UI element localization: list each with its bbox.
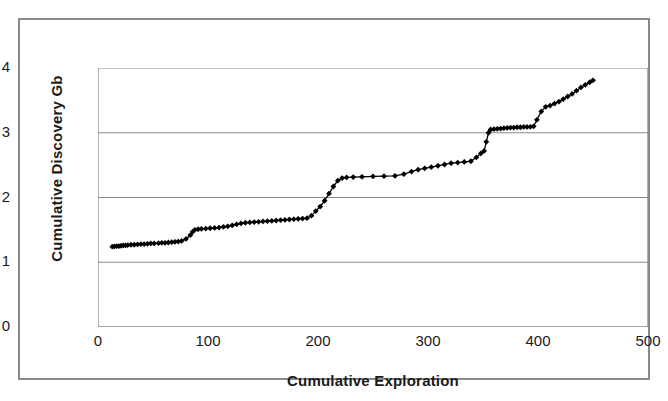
data-point-marker xyxy=(238,221,244,227)
y-tick-label: 3 xyxy=(0,123,10,140)
data-point-marker xyxy=(448,160,454,166)
x-tick-label: 500 xyxy=(623,332,668,349)
figure-container: Cumulative Discovery Gb Cumulative Explo… xyxy=(0,0,668,401)
data-point-marker xyxy=(401,171,407,177)
data-point-marker xyxy=(225,223,231,229)
data-point-marker xyxy=(359,174,365,180)
data-point-marker xyxy=(381,173,387,179)
data-point-marker xyxy=(415,167,421,173)
data-point-marker xyxy=(392,173,398,179)
data-point-marker xyxy=(339,175,345,181)
data-point-marker xyxy=(326,191,332,197)
data-point-marker xyxy=(409,169,415,175)
data-point-marker xyxy=(221,224,227,230)
y-tick-label: 2 xyxy=(0,188,10,205)
x-tick-label: 0 xyxy=(73,332,123,349)
gridlines xyxy=(98,68,648,327)
data-point-marker xyxy=(350,174,356,180)
data-point-marker xyxy=(435,163,441,169)
data-point-marker xyxy=(216,225,222,231)
data-point-marker xyxy=(428,164,434,170)
chart-outer-frame: Cumulative Discovery Gb Cumulative Explo… xyxy=(18,18,650,380)
data-point-marker xyxy=(229,222,235,228)
data-series-markers xyxy=(109,77,596,249)
data-point-marker xyxy=(422,165,428,171)
data-point-marker xyxy=(370,174,376,180)
x-tick-label: 400 xyxy=(513,332,563,349)
data-point-marker xyxy=(582,82,588,88)
data-point-marker xyxy=(483,139,489,145)
x-tick-label: 300 xyxy=(403,332,453,349)
x-tick-label: 200 xyxy=(293,332,343,349)
data-point-marker xyxy=(442,162,448,168)
data-point-marker xyxy=(304,215,310,221)
data-point-marker xyxy=(234,221,240,227)
data-point-marker xyxy=(455,160,461,166)
data-series-line xyxy=(112,80,593,246)
data-point-marker xyxy=(344,175,350,181)
data-point-marker xyxy=(534,117,540,123)
x-tick-label: 100 xyxy=(183,332,233,349)
chart-svg xyxy=(98,68,648,327)
data-point-marker xyxy=(565,94,571,100)
y-axis-title: Cumulative Discovery Gb xyxy=(48,29,65,309)
plot-area xyxy=(98,68,648,327)
y-tick-label: 4 xyxy=(0,58,10,75)
x-axis-title: Cumulative Exploration xyxy=(98,372,648,389)
data-point-marker xyxy=(560,96,566,102)
y-tick-label: 0 xyxy=(0,317,10,334)
y-tick-label: 1 xyxy=(0,252,10,269)
data-point-marker xyxy=(461,159,467,165)
